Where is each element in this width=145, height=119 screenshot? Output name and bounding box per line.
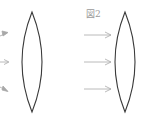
arrowhead-icon bbox=[2, 86, 8, 92]
figure-label: 図2 bbox=[86, 9, 101, 19]
right-parallel-rays bbox=[84, 32, 111, 92]
arrowhead-icon bbox=[2, 31, 8, 36]
optics-diagram: 図2 bbox=[0, 0, 145, 119]
left-convex-lens bbox=[22, 12, 42, 112]
right-convex-lens bbox=[115, 12, 135, 112]
diagram-canvas bbox=[0, 0, 145, 119]
left-rays bbox=[0, 31, 9, 92]
